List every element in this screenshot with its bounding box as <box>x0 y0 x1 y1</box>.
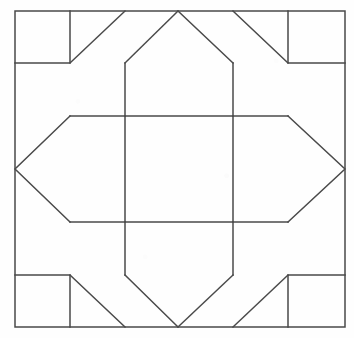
figure-canvas <box>0 0 354 338</box>
inner-rectangle <box>125 116 233 222</box>
star-pattern-figure <box>0 0 354 338</box>
corner-square-top-left <box>15 11 70 63</box>
top-zigzag <box>70 11 125 63</box>
bottom-left-diagonal-outer <box>70 275 125 327</box>
top-left-diagonal-inner <box>125 11 178 63</box>
corner-square-top-right <box>288 11 345 63</box>
corner-square-bottom-left <box>15 275 70 327</box>
top-right-diagonal-outer <box>233 11 288 63</box>
left-notch <box>15 116 70 222</box>
bottom-right-diagonal-outer <box>233 275 288 327</box>
right-notch <box>288 116 345 222</box>
bottom-left-diagonal-inner <box>125 275 178 327</box>
bottom-right-diagonal-inner <box>178 275 233 327</box>
top-right-diagonal-inner <box>178 11 233 63</box>
outer-square <box>15 11 345 327</box>
corner-square-bottom-right <box>288 275 345 327</box>
